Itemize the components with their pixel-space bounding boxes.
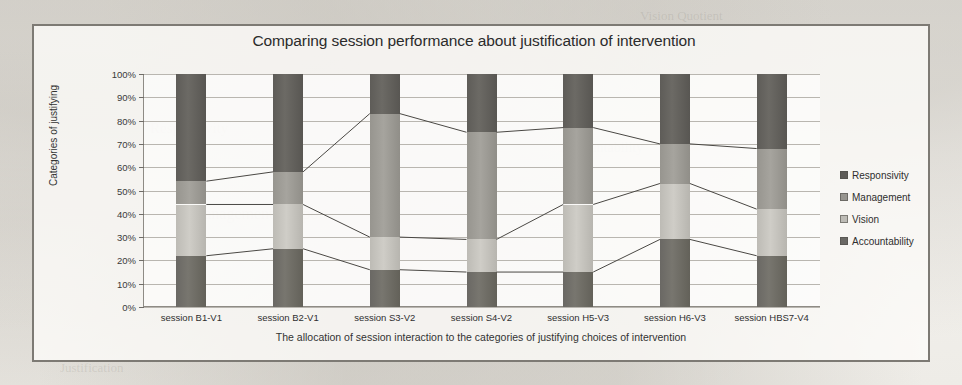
bar-segment-accountability[interactable]	[660, 239, 690, 307]
bar-column[interactable]	[757, 74, 787, 307]
bar-segment-accountability[interactable]	[467, 272, 497, 307]
chart-title: Comparing session performance about just…	[154, 32, 794, 50]
bleed-through-text-e: Justification	[60, 360, 124, 376]
chart-frame: Comparing session performance about just…	[32, 24, 930, 362]
bar-column[interactable]	[563, 74, 593, 307]
bar-column[interactable]	[273, 74, 303, 307]
x-axis-title: The allocation of session interaction to…	[34, 331, 928, 343]
bar-segment-vision[interactable]	[563, 205, 593, 273]
y-tick-mark	[139, 74, 144, 75]
bar-segment-vision[interactable]	[757, 209, 787, 256]
y-tick-label: 10%	[117, 278, 136, 289]
legend-item[interactable]: Responsivity	[840, 164, 952, 186]
gridline	[143, 307, 820, 308]
bar-segment-vision[interactable]	[467, 239, 497, 272]
y-tick-mark	[139, 260, 144, 261]
y-axis-title: Categories of justifying	[48, 85, 59, 186]
y-tick-mark	[139, 237, 144, 238]
bar-segment-responsivity[interactable]	[273, 74, 303, 172]
bar-column[interactable]	[467, 74, 497, 307]
x-tick-label: session S4-V2	[451, 312, 512, 323]
bar-segment-vision[interactable]	[273, 204, 303, 248]
y-tick-mark	[139, 144, 144, 145]
bar-segment-management[interactable]	[757, 149, 787, 210]
x-tick-label: session H5-V3	[547, 312, 609, 323]
y-tick-mark	[139, 307, 144, 308]
y-tick-label: 50%	[117, 185, 136, 196]
bar-segment-vision[interactable]	[176, 205, 206, 256]
bar-column[interactable]	[660, 74, 690, 307]
y-tick-mark	[139, 167, 144, 168]
legend-swatch-icon	[840, 237, 848, 245]
bar-segment-accountability[interactable]	[757, 256, 787, 307]
x-tick-label: session S3-V2	[354, 312, 415, 323]
y-tick-mark	[139, 284, 144, 285]
x-tick-label: session HBS7-V4	[734, 312, 808, 323]
bar-segment-accountability[interactable]	[370, 270, 400, 307]
legend-label: Management	[852, 192, 910, 203]
bar-column[interactable]	[370, 74, 400, 307]
y-tick-label: 90%	[117, 92, 136, 103]
bar-segment-management[interactable]	[273, 172, 303, 205]
y-tick-label: 0%	[122, 302, 136, 313]
plot-area: 100%90%80%70%60%50%40%30%20%10%0% sessio…	[143, 74, 820, 307]
legend-swatch-icon	[840, 171, 848, 179]
x-tick-label: session B2-V1	[257, 312, 318, 323]
y-tick-label: 20%	[117, 255, 136, 266]
y-tick-label: 30%	[117, 232, 136, 243]
y-tick-mark	[139, 97, 144, 98]
bar-segment-vision[interactable]	[370, 237, 400, 270]
y-tick-label: 60%	[117, 162, 136, 173]
bar-column[interactable]	[176, 74, 206, 307]
bar-segment-vision[interactable]	[660, 184, 690, 240]
x-tick-label: session H6-V3	[644, 312, 706, 323]
legend-label: Responsivity	[852, 170, 909, 181]
y-tick-mark	[139, 121, 144, 122]
bar-segment-management[interactable]	[370, 114, 400, 237]
bar-segment-responsivity[interactable]	[467, 74, 497, 132]
bar-segment-management[interactable]	[660, 144, 690, 184]
bar-segment-accountability[interactable]	[176, 256, 206, 307]
y-tick-label: 100%	[112, 69, 136, 80]
bar-segment-responsivity[interactable]	[660, 74, 690, 144]
legend-item[interactable]: Vision	[840, 208, 952, 230]
bar-segment-accountability[interactable]	[563, 272, 593, 307]
bar-segment-responsivity[interactable]	[370, 74, 400, 114]
x-tick-label: session B1-V1	[161, 312, 222, 323]
legend-item[interactable]: Accountability	[840, 230, 952, 252]
legend-swatch-icon	[840, 215, 848, 223]
bar-segment-responsivity[interactable]	[757, 74, 787, 149]
bar-segment-responsivity[interactable]	[176, 74, 206, 181]
y-tick-mark	[139, 214, 144, 215]
legend-swatch-icon	[840, 193, 848, 201]
legend-label: Vision	[852, 214, 879, 225]
bar-segment-accountability[interactable]	[273, 249, 303, 307]
bar-segment-responsivity[interactable]	[563, 74, 593, 128]
legend-label: Accountability	[852, 236, 914, 247]
bar-segment-management[interactable]	[563, 128, 593, 205]
bar-segment-management[interactable]	[467, 132, 497, 239]
y-tick-label: 40%	[117, 208, 136, 219]
bar-segment-management[interactable]	[176, 181, 206, 204]
y-tick-mark	[139, 191, 144, 192]
bleed-through-text-a: Vision Quotient	[640, 8, 723, 24]
y-tick-label: 70%	[117, 138, 136, 149]
legend-item[interactable]: Management	[840, 186, 952, 208]
chart-legend: ResponsivityManagementVisionAccountabili…	[840, 164, 952, 252]
y-tick-label: 80%	[117, 115, 136, 126]
